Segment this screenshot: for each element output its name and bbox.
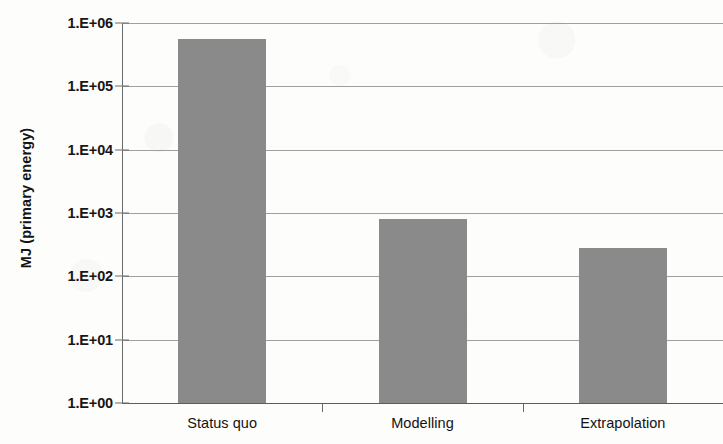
x-category-label: Status quo — [187, 415, 257, 431]
x-category-label: Modelling — [391, 415, 454, 431]
y-tick-label: 1.E+00 — [0, 395, 113, 411]
x-tick-mark — [322, 403, 323, 412]
bar — [379, 219, 467, 403]
y-tick-mark — [115, 276, 129, 277]
y-tick-label: 1.E+05 — [0, 78, 113, 94]
y-tick-mark — [115, 339, 129, 340]
y-tick-label: 1.E+03 — [0, 205, 113, 221]
y-tick-mark — [115, 403, 129, 404]
bar — [178, 39, 266, 403]
y-axis-title: MJ (primary energy) — [18, 68, 34, 328]
axis-baseline — [122, 403, 723, 404]
plot-area — [122, 23, 723, 403]
x-tick-mark — [523, 403, 524, 412]
gridline — [122, 23, 723, 24]
x-category-label: Extrapolation — [580, 415, 665, 431]
y-tick-label: 1.E+02 — [0, 268, 113, 284]
y-tick-label: 1.E+01 — [0, 332, 113, 348]
y-tick-label: 1.E+06 — [0, 15, 113, 31]
y-tick-mark — [115, 149, 129, 150]
y-tick-label: 1.E+04 — [0, 142, 113, 158]
y-tick-mark — [115, 86, 129, 87]
y-tick-mark — [115, 23, 129, 24]
bar-chart: MJ (primary energy) 1.E+001.E+011.E+021.… — [0, 0, 723, 444]
y-tick-mark — [115, 213, 129, 214]
bar — [579, 248, 667, 403]
